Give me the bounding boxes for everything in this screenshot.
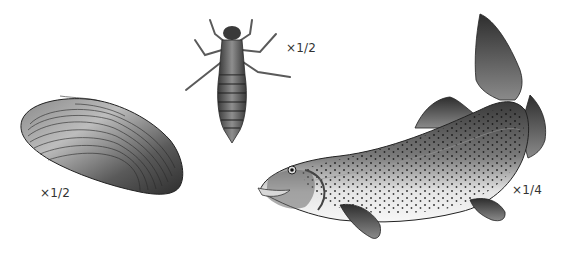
trout-scale-label: ×1/4 [512, 183, 542, 197]
clam-shell [21, 96, 183, 194]
clam-scale-label: ×1/2 [40, 186, 70, 200]
insect-larva [186, 20, 290, 143]
specimen-illustration: ×1/2 ×1/2 ×1/4 [0, 0, 565, 254]
larva-scale-label: ×1/2 [286, 41, 316, 55]
